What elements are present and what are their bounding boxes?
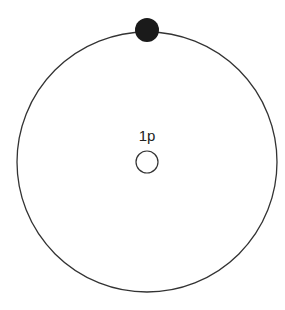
atom-diagram: 1p [0,0,285,310]
nucleus-label: 1p [139,127,156,144]
electron [135,18,159,42]
nucleus [136,151,158,173]
